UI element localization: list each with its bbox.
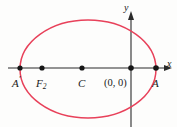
point-origin (128, 65, 134, 71)
label-x-axis: x (167, 59, 171, 69)
label-f2-letter: F (36, 77, 43, 89)
ellipse-diagram: A′ F2 C (0, 0) A x y (0, 0, 177, 127)
label-f2-subscript: 2 (43, 82, 47, 91)
label-a-prime-letter: A (12, 77, 19, 89)
y-axis-arrowhead (128, 11, 134, 20)
diagram-canvas (0, 0, 177, 127)
label-y-axis: y (124, 3, 128, 13)
label-origin: (0, 0) (104, 78, 127, 89)
label-a-prime-mark: ′ (19, 75, 21, 84)
point-a-prime (17, 65, 22, 70)
label-c: C (78, 78, 85, 89)
label-a-prime: A′ (12, 78, 20, 89)
point-a (153, 65, 159, 71)
label-f2: F2 (36, 78, 46, 89)
point-f2 (39, 65, 44, 70)
label-a: A (152, 78, 159, 89)
point-c (79, 65, 84, 70)
